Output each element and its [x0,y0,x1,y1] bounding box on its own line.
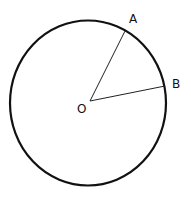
radius-oa [90,31,125,101]
circle-outline [10,21,166,186]
radius-ob [90,86,165,101]
circle-diagram: O A B [0,0,191,201]
label-b: B [172,77,180,91]
label-o: O [77,102,86,116]
label-a: A [129,12,138,26]
